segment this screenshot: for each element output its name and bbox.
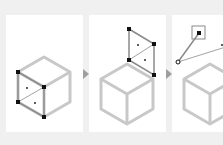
face-moved-illustration	[89, 15, 166, 132]
step-panel-2	[89, 15, 166, 132]
step-panel-3	[172, 15, 223, 132]
face-rotated-illustration	[172, 15, 223, 132]
cube-face-selected-illustration	[6, 15, 83, 132]
step-panel-1	[6, 15, 83, 132]
